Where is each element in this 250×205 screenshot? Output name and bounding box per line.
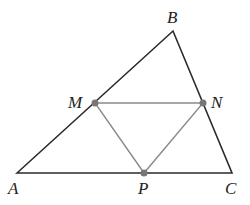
triangle-diagram: A B C M N P (0, 0, 250, 205)
point-p (141, 170, 148, 177)
label-a: A (7, 179, 19, 198)
label-p: P (137, 179, 148, 198)
label-n: N (210, 93, 224, 112)
diagram-svg: A B C M N P (0, 0, 250, 205)
label-m: M (67, 93, 83, 112)
point-m (92, 100, 99, 107)
triangle-mnp (95, 103, 203, 173)
label-b: B (167, 8, 178, 27)
point-n (200, 100, 207, 107)
label-c: C (225, 179, 237, 198)
